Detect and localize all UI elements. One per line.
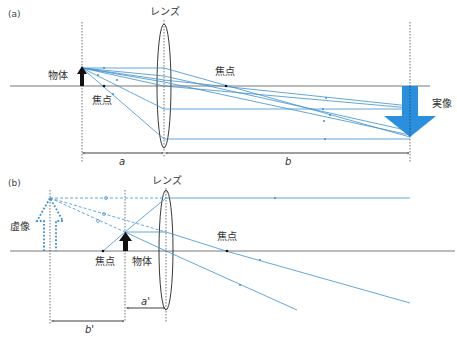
focus-left-b-label: 焦点 — [95, 255, 115, 267]
object-b-label: 物体 — [132, 255, 152, 267]
dim-a-prime-label: a' — [141, 296, 150, 307]
panel-a: (a) レンズ — [8, 5, 452, 167]
focal-point-left-a — [103, 85, 106, 88]
panel-b: (b) レンズ 虚像 — [8, 174, 455, 335]
image-a-label: 実像 — [432, 97, 452, 109]
dim-a-label: a — [119, 156, 125, 167]
panel-b-label: (b) — [8, 178, 21, 188]
lens-b-label: レンズ — [152, 174, 182, 186]
object-a-label: 物体 — [48, 69, 68, 81]
rays-b — [103, 197, 410, 310]
virtual-rays-b — [50, 197, 166, 233]
dim-b-label: b — [285, 156, 291, 167]
lens-a-label: レンズ — [150, 5, 180, 17]
focal-point-right-a — [225, 85, 228, 88]
image-b-label: 虚像 — [10, 221, 30, 232]
panel-a-label: (a) — [8, 9, 21, 19]
focus-left-a-label: 焦点 — [92, 94, 112, 106]
lens-b — [159, 190, 173, 310]
focus-right-a-label: 焦点 — [215, 65, 235, 77]
lens-optics-diagram: (a) レンズ — [0, 0, 457, 340]
object-arrow-b — [119, 232, 132, 251]
focus-right-b-label: 焦点 — [217, 230, 237, 242]
dim-b-prime-label: b' — [85, 324, 94, 335]
focal-point-right-b — [226, 250, 229, 253]
focal-point-left-b — [102, 250, 105, 253]
rays-a — [82, 67, 410, 140]
